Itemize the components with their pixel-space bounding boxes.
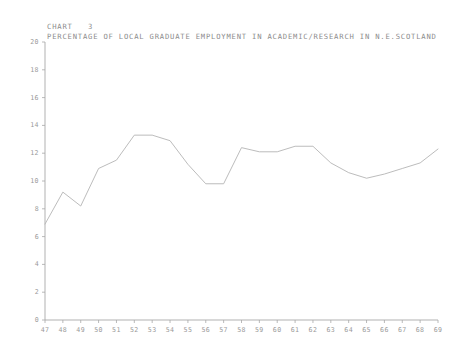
y-tick-label: 2 [19, 288, 39, 296]
y-tick-label: 6 [19, 233, 39, 241]
x-tick-label: 50 [94, 326, 103, 334]
x-tick-label: 69 [434, 326, 443, 334]
y-tick-label: 12 [19, 149, 39, 157]
y-tick-label: 14 [19, 121, 39, 129]
y-tick-label: 16 [19, 94, 39, 102]
x-tick-label: 56 [201, 326, 210, 334]
x-tick-label: 54 [166, 326, 175, 334]
y-tick-label: 4 [19, 260, 39, 268]
x-tick-label: 64 [344, 326, 353, 334]
x-tick-label: 59 [255, 326, 264, 334]
x-tick-label: 57 [219, 326, 228, 334]
x-tick-label: 48 [58, 326, 67, 334]
x-tick-label: 51 [112, 326, 121, 334]
x-tick-label: 52 [130, 326, 139, 334]
x-tick-label: 65 [362, 326, 371, 334]
chart-tick-marks [42, 42, 438, 323]
x-tick-label: 62 [309, 326, 318, 334]
x-tick-label: 68 [416, 326, 425, 334]
chart-axes [45, 42, 438, 320]
chart-page: CHART 3 PERCENTAGE OF LOCAL GRADUATE EMP… [0, 0, 458, 350]
x-tick-label: 55 [184, 326, 193, 334]
x-tick-label: 49 [76, 326, 85, 334]
x-tick-label: 47 [41, 326, 50, 334]
x-tick-label: 58 [237, 326, 246, 334]
x-tick-label: 67 [398, 326, 407, 334]
x-tick-label: 66 [380, 326, 389, 334]
x-tick-label: 53 [148, 326, 157, 334]
x-tick-label: 63 [326, 326, 335, 334]
data-series-line [45, 135, 438, 224]
y-tick-label: 8 [19, 205, 39, 213]
y-tick-label: 0 [19, 316, 39, 324]
y-tick-label: 10 [19, 177, 39, 185]
y-tick-label: 18 [19, 66, 39, 74]
y-tick-label: 20 [19, 38, 39, 46]
x-tick-label: 60 [273, 326, 282, 334]
line-chart-plot [0, 0, 458, 350]
x-tick-label: 61 [291, 326, 300, 334]
